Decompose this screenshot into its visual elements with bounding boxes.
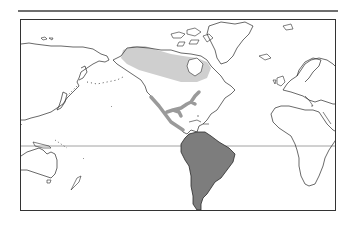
new-siberian-islands: [41, 37, 53, 40]
top-rule: [18, 10, 338, 12]
range-south-america: [181, 132, 235, 210]
greenland-landmass: [207, 22, 253, 64]
tasmania: [47, 180, 51, 183]
europe-landmass: [283, 58, 336, 104]
australia-landmass: [21, 148, 57, 178]
kamchatka: [79, 66, 87, 80]
new-guinea: [33, 142, 51, 148]
caribbean-islands: [189, 116, 209, 124]
asia-landmass: [21, 43, 109, 120]
new-zealand: [71, 176, 81, 190]
world-map: [21, 20, 336, 211]
pacific-islands: [21, 106, 113, 160]
japan-islands: [57, 92, 67, 110]
iceland: [259, 54, 271, 60]
range-mexico-gulf-coast: [151, 92, 199, 130]
kuril-islands: [67, 86, 77, 96]
british-isles: [273, 76, 285, 86]
aleutian-islands: [87, 76, 125, 84]
red-sea: [323, 112, 331, 124]
map-frame: [20, 19, 336, 211]
canadian-arctic-islands: [171, 28, 213, 46]
svalbard: [283, 24, 293, 30]
